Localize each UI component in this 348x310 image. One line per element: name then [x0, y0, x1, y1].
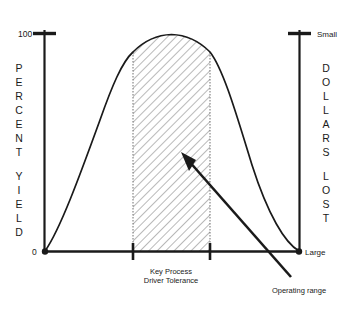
- yield-vs-dollars-lost-figure: 100 0 Small Large Key Process Driver Tol…: [0, 0, 348, 310]
- right-axis-title-letter-5: R: [322, 132, 330, 144]
- left-axis-title-letter-10: L: [16, 212, 22, 224]
- left-axis-title-letter-7: Y: [15, 170, 22, 182]
- right-axis-title-letter-4: A: [322, 118, 329, 130]
- right-axis-title-letter-1: O: [322, 76, 330, 88]
- right-axis-title-letter-9: S: [322, 198, 329, 210]
- left-axis-title-letter-4: E: [15, 118, 22, 130]
- operating-range-label: Operating range: [272, 286, 326, 295]
- right-axis-bottom-label: Large: [305, 248, 326, 257]
- left-axis-title-letter-0: P: [15, 62, 22, 74]
- left-axis-title-letter-3: C: [15, 104, 23, 116]
- left-axis-title-letter-11: D: [15, 226, 23, 238]
- left-axis-title: P E R C E N T Y I E L D: [15, 62, 23, 238]
- left-axis-title-letter-2: R: [15, 90, 23, 102]
- right-axis-title-letter-10: T: [323, 212, 330, 224]
- right-axis-title: D O L L A R S L O S T: [322, 62, 330, 224]
- left-axis-title-letter-6: T: [16, 146, 23, 158]
- right-axis-title-letter-2: L: [323, 90, 329, 102]
- right-axis-title-letter-7: L: [323, 170, 329, 182]
- left-axis-top-label: 100: [18, 29, 32, 39]
- left-axis-title-letter-5: N: [15, 132, 23, 144]
- right-axis-title-letter-6: S: [322, 146, 329, 158]
- right-axis-top-label: Small: [317, 30, 337, 39]
- left-axis-title-letter-1: E: [15, 76, 22, 88]
- left-axis-title-letter-8: I: [18, 184, 21, 196]
- right-axis-title-letter-3: L: [323, 104, 329, 116]
- left-axis-bottom-label: 0: [32, 247, 37, 257]
- plot-canvas: 100 0 Small Large Key Process Driver Tol…: [0, 0, 348, 310]
- right-axis-title-letter-8: O: [322, 184, 330, 196]
- tolerance-caption-line2: Driver Tolerance: [144, 276, 198, 285]
- right-axis-title-letter-0: D: [322, 62, 330, 74]
- tolerance-band: [130, 28, 214, 254]
- left-axis-title-letter-9: E: [15, 198, 22, 210]
- tolerance-band-hatch: [130, 28, 214, 254]
- tolerance-caption-line1: Key Process: [150, 267, 192, 276]
